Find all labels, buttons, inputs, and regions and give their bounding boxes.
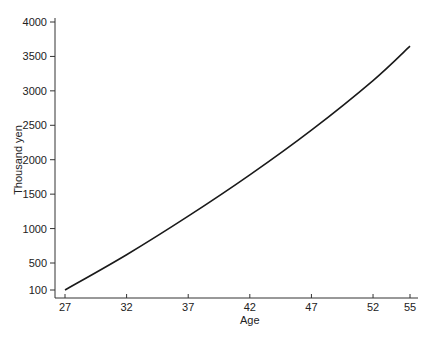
x-ticks: 27323742475255 — [59, 294, 416, 313]
y-ticks: 1005001000150020002500300035004000 — [23, 16, 55, 296]
y-tick-label: 2500 — [23, 119, 47, 131]
y-tick-label: 1000 — [23, 223, 47, 235]
x-tick-label: 55 — [404, 301, 416, 313]
line-chart: 1005001000150020002500300035004000 27323… — [0, 0, 432, 340]
x-tick-label: 42 — [244, 301, 256, 313]
y-axis-title: Thousand yen — [12, 125, 24, 195]
y-tick-label: 4000 — [23, 16, 47, 28]
y-tick-label: 3000 — [23, 85, 47, 97]
y-tick-label: 1500 — [23, 188, 47, 200]
x-axis-title: Age — [240, 314, 260, 326]
y-tick-label: 2000 — [23, 154, 47, 166]
x-tick-label: 27 — [59, 301, 71, 313]
x-tick-label: 52 — [367, 301, 379, 313]
series-line — [65, 46, 410, 290]
x-tick-label: 37 — [182, 301, 194, 313]
axes — [55, 18, 418, 298]
y-tick-label: 3500 — [23, 50, 47, 62]
x-tick-label: 32 — [120, 301, 132, 313]
y-tick-label: 100 — [29, 284, 47, 296]
y-tick-label: 500 — [29, 257, 47, 269]
x-tick-label: 47 — [305, 301, 317, 313]
